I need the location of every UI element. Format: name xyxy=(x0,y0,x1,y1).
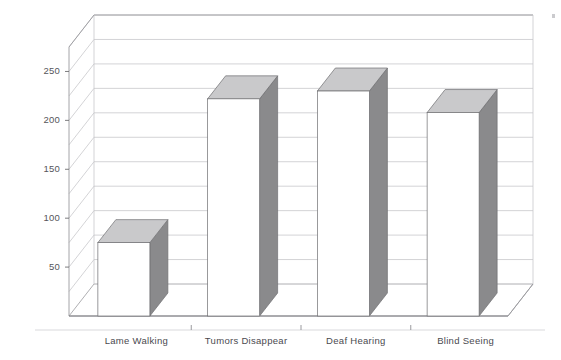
y-tick-label-250: 250 xyxy=(8,65,60,76)
y-tick-label-50: 50 xyxy=(8,261,60,272)
scan-artifact-mark xyxy=(552,14,555,18)
x-axis-label-3: Blind Seeing xyxy=(406,335,526,346)
bar-2 xyxy=(317,68,387,316)
y-tick-label-100: 100 xyxy=(8,212,60,223)
bar-3 xyxy=(427,90,497,316)
y-tick-label-150: 150 xyxy=(8,163,60,174)
bars-group xyxy=(98,68,497,316)
chart-container: 25020015010050 Lame WalkingTumors Disapp… xyxy=(0,0,561,360)
bar-0 xyxy=(98,220,168,316)
x-axis-label-2: Deaf Hearing xyxy=(296,335,416,346)
bar-1 xyxy=(208,76,278,316)
x-axis-label-0: Lame Walking xyxy=(76,335,196,346)
y-tick-label-200: 200 xyxy=(8,114,60,125)
x-axis-label-1: Tumors Disappear xyxy=(186,335,306,346)
chart-canvas xyxy=(0,0,561,360)
